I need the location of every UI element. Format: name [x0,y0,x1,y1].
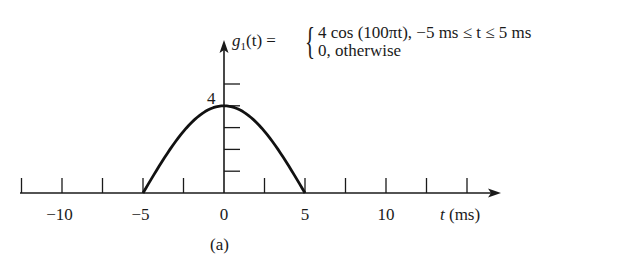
figure-caption: (a) [210,236,229,253]
x-tick-label: −10 [46,206,73,223]
y-ticks [224,84,240,171]
formula-case-1: 4 cos (100πt), −5 ms ≤ t ≤ 5 ms [318,24,531,41]
x-tick-label: 0 [220,206,229,223]
x-tick-label: 5 [301,206,310,223]
formula-lhs: g1(t) = [232,32,276,52]
x-ticks [22,178,468,193]
formula-case-2: 0, otherwise [318,42,401,59]
formula-lhs-rest: (t) = [246,31,276,50]
x-axis-unit: (ms) [449,205,480,224]
x-axis-variable: t [440,205,445,224]
y-peak-label: 4 [207,90,216,107]
x-tick-label: −5 [132,206,150,223]
left-brace-icon: { [305,22,315,60]
x-axis-title: t (ms) [440,206,480,223]
x-tick-label: 10 [378,206,395,223]
formula-function-name: g [232,31,241,50]
